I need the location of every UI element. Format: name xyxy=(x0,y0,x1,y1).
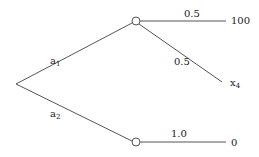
branch-a2-line xyxy=(16,84,132,141)
chance-node-top xyxy=(132,17,140,25)
payoff-x4: x4 xyxy=(230,77,241,90)
probability-label-top-2: 0.5 xyxy=(174,56,190,67)
outcome-x4-line xyxy=(139,24,222,82)
probability-label-bottom: 1.0 xyxy=(171,128,187,139)
payoff-0: 0 xyxy=(231,137,237,148)
chance-node-bottom xyxy=(132,138,140,146)
decision-tree-diagram: a1 a2 0.5 0.5 1.0 100 x4 0 xyxy=(0,0,259,157)
branch-a1-label: a1 xyxy=(50,55,60,68)
branch-a2-label: a2 xyxy=(50,108,60,121)
probability-label-top-1: 0.5 xyxy=(184,8,200,19)
branch-a1-line xyxy=(16,23,132,84)
payoff-100: 100 xyxy=(231,15,250,26)
